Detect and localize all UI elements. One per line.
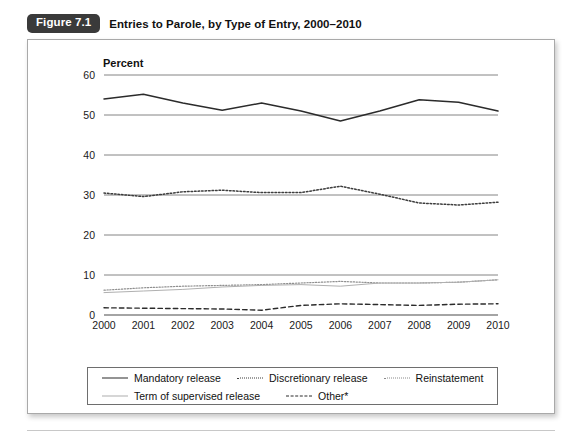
x-axis-tick-label: 2004 bbox=[250, 319, 274, 331]
bottom-caption bbox=[27, 435, 555, 444]
legend-swatch-dashed-icon bbox=[286, 391, 312, 401]
y-axis-tick-label: 30 bbox=[83, 189, 95, 201]
legend-item-term-of-supervised-release: Term of supervised release bbox=[102, 390, 260, 402]
y-axis-tick-label: 20 bbox=[83, 229, 95, 241]
legend-label-other: Other* bbox=[318, 390, 348, 402]
legend-label-reinstatement: Reinstatement bbox=[416, 372, 484, 384]
figure-page: Figure 7.1 Entries to Parole, by Type of… bbox=[0, 0, 584, 444]
legend-swatch-solid-thick-icon bbox=[102, 373, 128, 383]
legend-item-other: Other* bbox=[286, 390, 348, 402]
legend-label-discretionary-release: Discretionary release bbox=[269, 372, 368, 384]
y-axis-tick-label: 60 bbox=[83, 69, 95, 81]
series-line bbox=[104, 94, 498, 121]
y-axis-ticks: 0102030405060 bbox=[83, 69, 95, 321]
series-line bbox=[104, 186, 498, 205]
legend-swatch-solid-light-icon bbox=[102, 391, 128, 401]
x-axis-tick-label: 2005 bbox=[289, 319, 313, 331]
x-axis-tick-label: 2006 bbox=[329, 319, 353, 331]
y-axis-tick-label: 40 bbox=[83, 149, 95, 161]
x-axis-tick-label: 2001 bbox=[132, 319, 156, 331]
legend-label-mandatory-release: Mandatory release bbox=[134, 372, 221, 384]
chart-card: Percent 0102030405060 200020012002200320… bbox=[27, 39, 555, 414]
legend-row-1: Mandatory release Discretionary release … bbox=[88, 368, 497, 387]
figure-number-badge: Figure 7.1 bbox=[27, 14, 100, 33]
legend-item-mandatory-release: Mandatory release bbox=[102, 372, 221, 384]
x-axis-tick-label: 2003 bbox=[211, 319, 235, 331]
legend-item-reinstatement: Reinstatement bbox=[384, 372, 484, 384]
x-axis-tick-label: 2007 bbox=[368, 319, 392, 331]
plot-area: Percent 0102030405060 200020012002200320… bbox=[28, 40, 556, 415]
y-axis-tick-label: 50 bbox=[83, 109, 95, 121]
x-axis-tick-label: 2010 bbox=[486, 319, 510, 331]
legend-row-2: Term of supervised release Other* bbox=[88, 386, 497, 405]
x-axis-tick-label: 2009 bbox=[447, 319, 471, 331]
x-axis-tick-label: 2002 bbox=[171, 319, 195, 331]
series-line bbox=[104, 304, 498, 310]
legend-swatch-dotted-icon bbox=[237, 373, 263, 383]
legend-label-term-of-supervised-release: Term of supervised release bbox=[134, 390, 260, 402]
x-axis-ticks: 2000200120022003200420052006200720082009… bbox=[92, 319, 510, 331]
figure-header: Figure 7.1 Entries to Parole, by Type of… bbox=[27, 13, 362, 34]
data-series-group bbox=[104, 94, 498, 310]
legend-swatch-dotted-light-icon bbox=[384, 373, 410, 383]
chart-legend: Mandatory release Discretionary release … bbox=[87, 367, 498, 405]
line-chart-svg: 0102030405060 20002001200220032004200520… bbox=[28, 40, 556, 415]
bottom-divider bbox=[27, 430, 555, 431]
figure-title: Entries to Parole, by Type of Entry, 200… bbox=[109, 18, 361, 30]
legend-item-discretionary-release: Discretionary release bbox=[237, 372, 368, 384]
y-axis-tick-label: 10 bbox=[83, 269, 95, 281]
x-axis-tick-label: 2008 bbox=[408, 319, 432, 331]
x-axis-tick-label: 2000 bbox=[92, 319, 116, 331]
series-line bbox=[104, 280, 498, 293]
